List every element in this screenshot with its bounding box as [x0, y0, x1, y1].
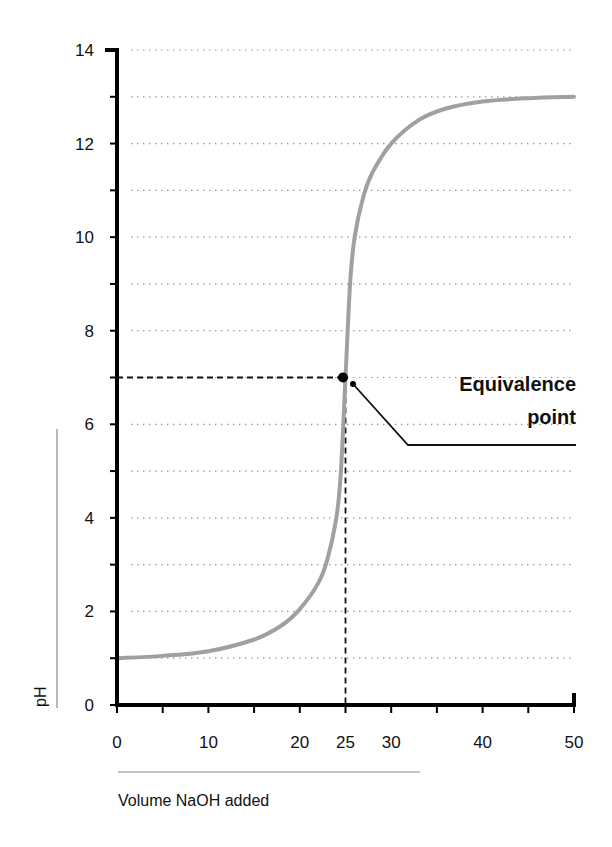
y-axis-label: pH [32, 687, 49, 707]
annotation-equivalence: Equivalence [459, 373, 576, 395]
y-tick-label: 4 [85, 509, 94, 528]
y-tick-label: 8 [85, 322, 94, 341]
y-tick-label: 14 [75, 41, 94, 60]
x-tick-label: 30 [382, 733, 401, 752]
x-tick-label: 0 [112, 733, 121, 752]
y-axis-ticks: 02468101214 [75, 41, 117, 715]
y-tick-label: 6 [85, 415, 94, 434]
y-tick-label: 0 [85, 696, 94, 715]
y-tick-label: 10 [75, 228, 94, 247]
x-tick-label: 25 [336, 733, 355, 752]
y-tick-label: 2 [85, 602, 94, 621]
equivalence-point-marker [338, 373, 348, 383]
x-axis-label: Volume NaOH added [118, 792, 269, 809]
titration-chart: 02468101214 0102025304050 Equivalence po… [0, 0, 612, 847]
x-axis-ticks: 0102025304050 [112, 705, 583, 752]
x-tick-label: 40 [473, 733, 492, 752]
x-tick-label: 20 [290, 733, 309, 752]
x-tick-label: 50 [565, 733, 584, 752]
x-tick-label: 10 [199, 733, 218, 752]
y-tick-label: 12 [75, 135, 94, 154]
annotation-point: point [527, 406, 576, 428]
grid-lines [131, 50, 574, 658]
